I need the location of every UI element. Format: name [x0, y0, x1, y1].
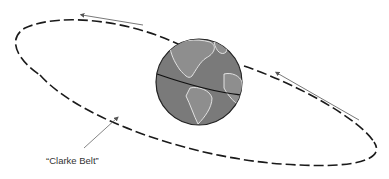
earth-globe-icon — [156, 39, 242, 125]
clarke-belt-diagram — [0, 0, 389, 179]
clarke-belt-label: “Clarke Belt” — [46, 155, 99, 166]
label-pointer-arrow — [84, 118, 117, 148]
orbit-direction-arrow-right — [277, 73, 359, 120]
